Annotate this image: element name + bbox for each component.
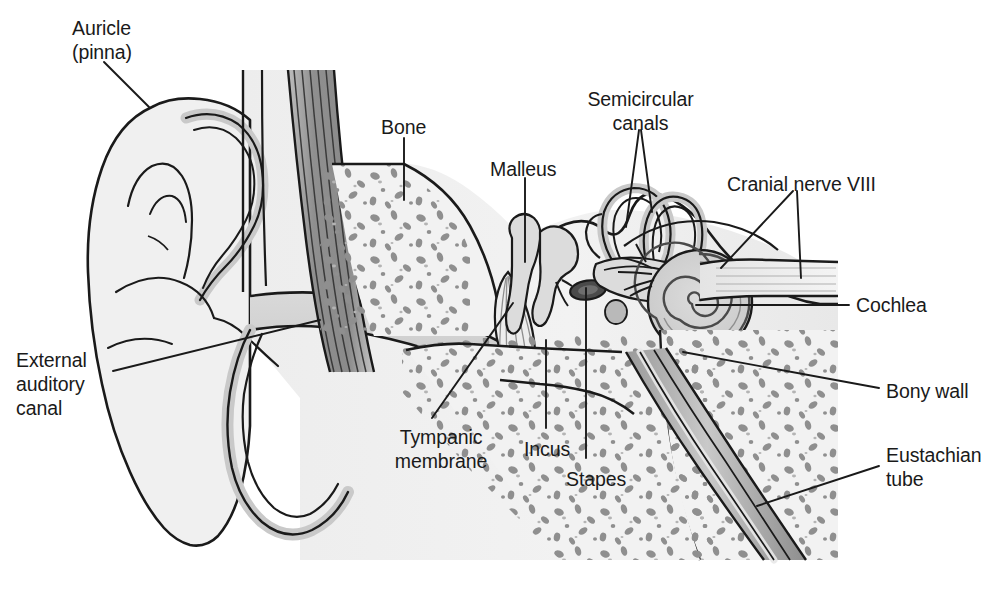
label-bone: Bone <box>381 115 426 139</box>
label-semicircular-canals: Semicircular canals <box>583 87 698 135</box>
label-cranial-nerve-viii: Cranial nerve VIII <box>727 172 876 196</box>
label-stapes: Stapes <box>566 467 626 491</box>
label-malleus: Malleus <box>490 157 557 181</box>
label-incus: Incus <box>524 437 570 461</box>
label-eustachian-tube: Eustachian tube <box>886 443 981 491</box>
label-tympanic-membrane: Tympanic membrane <box>378 425 504 473</box>
ear-anatomy-illustration <box>0 0 1005 591</box>
round-window <box>605 300 627 324</box>
label-auricle-pinna: Auricle (pinna) <box>72 16 132 64</box>
ear-anatomy-diagram: Auricle (pinna) Bone Malleus Semicircula… <box>0 0 1005 591</box>
label-bony-wall: Bony wall <box>886 379 969 403</box>
label-cochlea: Cochlea <box>856 293 927 317</box>
label-external-auditory-canal: External auditory canal <box>16 348 87 420</box>
